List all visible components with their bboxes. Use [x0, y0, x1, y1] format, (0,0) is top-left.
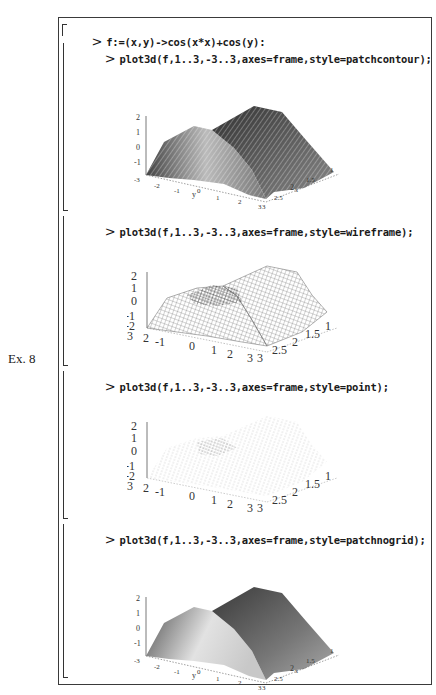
z-tick: 2 — [136, 113, 140, 122]
plot3d-patchcontour[interactable]: 2 1 0 -1 -3 -2 -1 y 0 1 2 3 3 2.5 2 x 1.… — [134, 100, 344, 214]
y-tick: -3 — [127, 329, 133, 343]
z-tick: 0 — [131, 294, 137, 308]
command-code: plot3d(f,1..3,-3..3,axes=frame,style=wir… — [119, 226, 413, 238]
x-tick: 1.5 — [306, 176, 315, 184]
x-tick: 3 — [257, 501, 263, 512]
x-tick: 1.5 — [305, 327, 320, 341]
maple-worksheet-frame: >f:=(x,y)->cos(x*x)+cos(y): >plot3d(f,1.… — [58, 17, 432, 685]
command-code: plot3d(f,1..3,-3..3,axes=frame,style=pat… — [119, 534, 425, 546]
x-axis-label: x — [295, 668, 298, 674]
x-tick: 2 — [290, 183, 294, 192]
y-tick: 0 — [189, 489, 195, 503]
x-tick: 2 — [292, 335, 298, 349]
x-tick: 2.5 — [274, 675, 283, 683]
plot3d-point[interactable]: 2 1 0 -1 -2 -3 2 -1 0 1 2 3 3 2.5 2 1.5 … — [127, 400, 347, 516]
z-tick: 2 — [136, 594, 140, 603]
command-code: plot3d(f,1..3,-3..3,axes=frame,style=pat… — [119, 53, 431, 65]
x-tick: 3 — [257, 351, 263, 362]
command-input-patchnogrid[interactable]: >plot3d(f,1..3,-3..3,axes=frame,style=pa… — [68, 520, 426, 559]
y-tick: 2 — [238, 679, 242, 687]
command-input-wireframe[interactable]: >plot3d(f,1..3,-3..3,axes=frame,style=wi… — [68, 212, 413, 251]
y-tick: 3 — [247, 351, 253, 362]
z-tick: -1 — [134, 639, 141, 648]
z-tick: 1 — [136, 128, 140, 137]
x-axis-label: x — [295, 187, 298, 193]
y-tick: 0 — [197, 187, 201, 195]
execution-group-point: >plot3d(f,1..3,-3..3,axes=frame,style=po… — [63, 371, 64, 519]
y-tick: 2 — [227, 347, 233, 361]
y-tick: 1 — [216, 675, 220, 683]
y-tick: 2 — [143, 331, 149, 345]
z-tick: 0 — [131, 444, 137, 458]
x-tick: 2.5 — [272, 343, 287, 357]
y-axis-label: y — [192, 190, 196, 199]
example-label: Ex. 8 — [8, 351, 35, 367]
x-tick: 1.5 — [305, 477, 320, 491]
x-tick: 3 — [262, 203, 266, 210]
x-tick: 1 — [325, 469, 331, 483]
x-tick: 2 — [292, 485, 298, 499]
y-tick: -1 — [174, 187, 180, 195]
plot3d-patchnogrid[interactable]: 2 1 0 -1 -3 -2 -1 y 0 1 2 3 3 2.5 2 x 1.… — [134, 581, 344, 695]
execution-group-definition — [62, 24, 63, 36]
y-tick: -2 — [154, 182, 160, 190]
y-tick: 1 — [211, 493, 217, 507]
y-tick: 2 — [143, 481, 149, 495]
y-tick: -3 — [134, 657, 140, 665]
z-tick: 0 — [136, 143, 140, 152]
x-tick: 2.5 — [274, 194, 283, 202]
y-tick: -1 — [174, 668, 180, 676]
x-tick: 1.5 — [306, 657, 315, 665]
x-tick: 1 — [330, 166, 334, 174]
z-tick: 1 — [131, 431, 137, 445]
plot3d-wireframe[interactable]: 2 1 0 -1 -2 -3 2 -1 0 1 2 3 3 2.5 2 1.5 … — [127, 250, 347, 366]
y-tick: -1 — [155, 335, 165, 349]
execution-group-patchnogrid: >plot3d(f,1..3,-3..3,axes=frame,style=pa… — [63, 524, 64, 678]
y-tick: 1 — [211, 343, 217, 357]
x-tick: 2 — [290, 664, 294, 673]
z-tick: 0 — [136, 624, 140, 633]
y-tick: 2 — [227, 497, 233, 511]
x-tick: 1 — [330, 647, 334, 655]
command-input-patchcontour[interactable]: >plot3d(f,1..3,-3..3,axes=frame,style=pa… — [68, 39, 432, 78]
y-axis-label: y — [192, 671, 196, 680]
z-tick: 1 — [136, 609, 140, 618]
execution-group-wireframe: >plot3d(f,1..3,-3..3,axes=frame,style=wi… — [63, 216, 64, 366]
command-code: plot3d(f,1..3,-3..3,axes=frame,style=poi… — [119, 381, 388, 393]
x-tick: 2.5 — [272, 493, 287, 507]
x-tick: 1 — [325, 319, 331, 333]
execution-group-patchcontour: >plot3d(f,1..3,-3..3,axes=frame,style=pa… — [63, 43, 64, 211]
y-tick: -2 — [154, 663, 160, 671]
y-tick: 1 — [216, 194, 220, 202]
y-tick: 3 — [247, 501, 253, 512]
x-tick: 3 — [262, 684, 266, 691]
z-tick: 1 — [131, 281, 137, 295]
y-tick: -3 — [127, 479, 133, 493]
y-tick: -3 — [134, 176, 140, 184]
y-tick: 0 — [197, 668, 201, 676]
y-tick: 2 — [238, 198, 242, 206]
z-tick: -1 — [134, 158, 141, 167]
y-tick: -1 — [155, 485, 165, 499]
y-tick: 0 — [189, 339, 195, 353]
